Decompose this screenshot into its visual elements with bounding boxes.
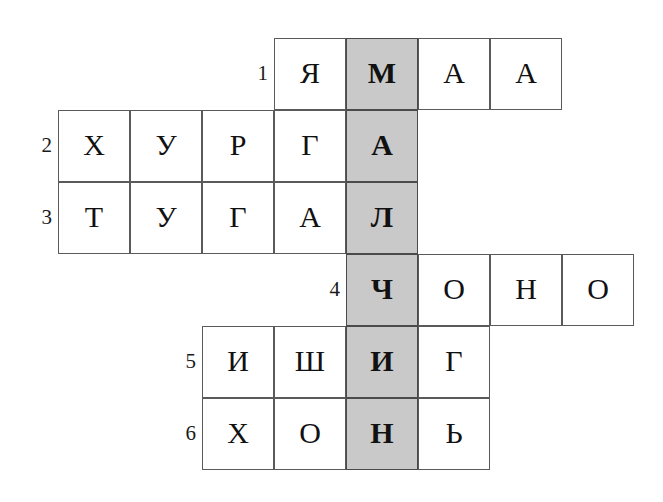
letter-cell[interactable]: У	[130, 110, 202, 182]
letter-cell[interactable]: И	[202, 326, 274, 398]
crossword-grid: 1ЯМАА2ХУРГА3ТУГАЛ4ЧОНО5ИШИГ6ХОНЬ	[0, 0, 663, 502]
cell-letter: А	[443, 58, 465, 88]
cell-letter: Л	[371, 202, 393, 232]
cell-letter: Г	[301, 130, 318, 160]
cell-letter: Р	[230, 130, 247, 160]
cell-letter: А	[515, 58, 537, 88]
cell-letter: У	[155, 130, 176, 160]
letter-cell[interactable]: Г	[202, 182, 274, 254]
cell-letter: Я	[300, 58, 320, 88]
letter-cell[interactable]: А	[418, 38, 490, 110]
row-number-1: 1	[242, 63, 268, 84]
letter-cell[interactable]: Р	[202, 110, 274, 182]
cell-letter: Ш	[295, 346, 325, 376]
cell-letter: Ч	[371, 274, 393, 304]
cell-letter: У	[155, 202, 176, 232]
letter-cell[interactable]: Х	[202, 398, 274, 470]
letter-cell[interactable]: Т	[58, 182, 130, 254]
row-number-6: 6	[170, 423, 196, 444]
keyword-cell[interactable]: Ч	[346, 254, 418, 326]
cell-letter: Г	[229, 202, 246, 232]
row-number-3: 3	[26, 207, 52, 228]
keyword-cell[interactable]: А	[346, 110, 418, 182]
letter-cell[interactable]: Г	[274, 110, 346, 182]
letter-cell[interactable]: О	[562, 254, 634, 326]
row-number-5: 5	[170, 351, 196, 372]
letter-cell[interactable]: О	[418, 254, 490, 326]
row-number-4: 4	[314, 279, 340, 300]
crossword-puzzle: 1ЯМАА2ХУРГА3ТУГАЛ4ЧОНО5ИШИГ6ХОНЬ	[0, 0, 663, 502]
letter-cell[interactable]: Х	[58, 110, 130, 182]
keyword-cell[interactable]: М	[346, 38, 418, 110]
keyword-cell[interactable]: Н	[346, 398, 418, 470]
cell-letter: О	[443, 274, 465, 304]
keyword-cell[interactable]: И	[346, 326, 418, 398]
row-number-2: 2	[26, 135, 52, 156]
letter-cell[interactable]: У	[130, 182, 202, 254]
cell-letter: О	[587, 274, 609, 304]
cell-letter: И	[227, 346, 249, 376]
letter-cell[interactable]: Ь	[418, 398, 490, 470]
letter-cell[interactable]: Ш	[274, 326, 346, 398]
cell-letter: О	[299, 418, 321, 448]
cell-letter: И	[370, 346, 393, 376]
cell-letter: Ь	[445, 418, 462, 448]
cell-letter: А	[371, 130, 393, 160]
cell-letter: Н	[515, 274, 537, 304]
cell-letter: Т	[85, 202, 103, 232]
letter-cell[interactable]: Я	[274, 38, 346, 110]
letter-cell[interactable]: Г	[418, 326, 490, 398]
cell-letter: Г	[445, 346, 462, 376]
cell-letter: М	[368, 58, 396, 88]
letter-cell[interactable]: О	[274, 398, 346, 470]
cell-letter: Н	[370, 418, 393, 448]
letter-cell[interactable]: Н	[490, 254, 562, 326]
cell-letter: Х	[83, 130, 105, 160]
letter-cell[interactable]: А	[490, 38, 562, 110]
keyword-cell[interactable]: Л	[346, 182, 418, 254]
cell-letter: Х	[227, 418, 249, 448]
cell-letter: А	[299, 202, 321, 232]
letter-cell[interactable]: А	[274, 182, 346, 254]
